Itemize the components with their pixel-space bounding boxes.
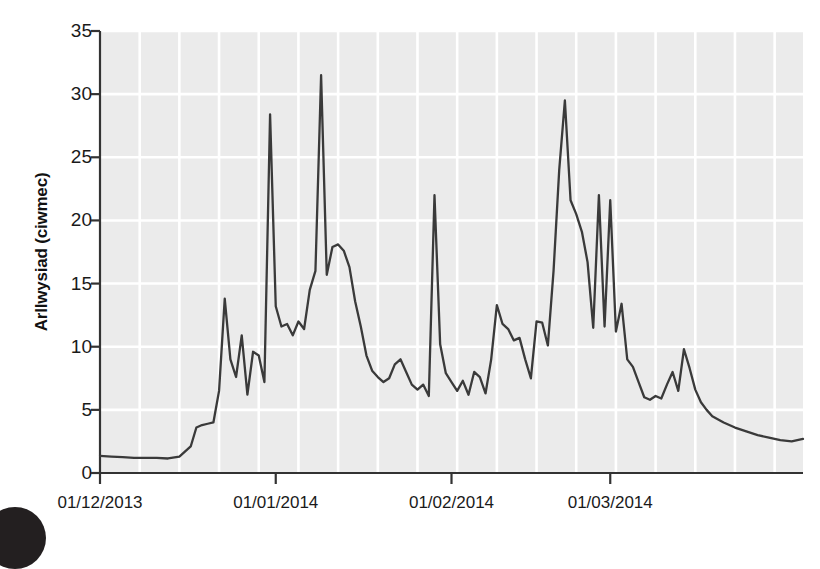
- plot-background: [100, 31, 803, 473]
- x-tick-label: 01/12/2013: [57, 493, 142, 513]
- x-tick-label: 01/02/2014: [409, 493, 494, 513]
- y-tick-marks: [91, 31, 100, 473]
- x-tick-label: 01/01/2014: [233, 493, 318, 513]
- x-tick-marks: [100, 473, 610, 484]
- x-tick-label: 01/03/2014: [568, 493, 653, 513]
